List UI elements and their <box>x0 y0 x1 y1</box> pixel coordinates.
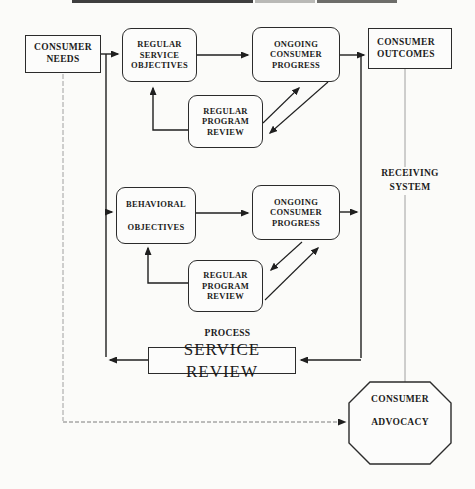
ongoing-consumer-progress-box-top: ONGOING CONSUMER PROGRESS <box>252 27 340 82</box>
arrow-review1-to-progress1-diagonal <box>263 88 299 123</box>
cropped-title-fragment <box>72 0 253 3</box>
service-review-box: SERVICE REVIEW <box>148 347 296 374</box>
ongoing-consumer-progress-box-bottom: ONGOING CONSUMER PROGRESS <box>252 185 340 240</box>
arrow-review2-to-behavioral <box>148 248 188 283</box>
consumer-outcomes-label: OUTCOMES <box>377 49 435 61</box>
consumer-needs-box: CONSUMER NEEDS <box>25 35 101 73</box>
cropped-title-fragment <box>317 0 397 3</box>
regular-program-review-label: REVIEW <box>207 127 244 138</box>
arrow-review1-to-service-objectives <box>153 88 188 130</box>
regular-service-objectives-label: OBJECTIVES <box>131 60 188 71</box>
consumer-needs-label: NEEDS <box>46 54 79 66</box>
consumer-advocacy-label: CONSUMER ADVOCACY <box>350 394 450 427</box>
behavioral-objectives-box: BEHAVIORAL OBJECTIVES <box>116 187 196 244</box>
behavioral-objectives-label: BEHAVIORAL <box>126 199 186 210</box>
regular-service-objectives-label: REGULAR <box>137 39 182 50</box>
ongoing-consumer-progress-label: ONGOING <box>274 197 318 208</box>
regular-service-objectives-box: REGULAR SERVICE OBJECTIVES <box>122 28 197 82</box>
ongoing-consumer-progress-label: ONGOING <box>274 39 318 50</box>
regular-program-review-box-top: REGULAR PROGRAM REVIEW <box>188 95 263 148</box>
regular-program-review-label: REGULAR <box>203 106 248 117</box>
arrow-review2-to-progress2-diagonal <box>265 248 318 300</box>
regular-program-review-label: PROGRAM <box>202 281 249 292</box>
ongoing-consumer-progress-label: PROGRESS <box>272 60 320 71</box>
cropped-title-fragment <box>255 0 315 3</box>
regular-service-objectives-label: SERVICE <box>140 50 180 61</box>
ongoing-consumer-progress-label: CONSUMER <box>270 207 322 218</box>
service-review-label: SERVICE REVIEW <box>149 339 295 382</box>
consumer-outcomes-label: CONSUMER <box>377 37 435 49</box>
behavioral-objectives-label: OBJECTIVES <box>128 222 185 233</box>
consumer-outcomes-box: CONSUMER OUTCOMES <box>368 28 452 69</box>
consumer-needs-label: CONSUMER <box>34 42 92 54</box>
regular-program-review-label: PROGRAM <box>202 116 249 127</box>
ongoing-consumer-progress-label: CONSUMER <box>270 49 322 60</box>
arrow-progress2-to-review2-diagonal <box>271 242 302 270</box>
regular-program-review-label: REVIEW <box>207 291 244 302</box>
regular-program-review-label: REGULAR <box>203 270 248 281</box>
ongoing-consumer-progress-label: PROGRESS <box>272 218 320 229</box>
receiving-system-label: RECEIVING SYSTEM <box>370 167 450 195</box>
regular-program-review-box-bottom: REGULAR PROGRAM REVIEW <box>188 260 263 312</box>
flowchart-diagram: CONSUMER NEEDS REGULAR SERVICE OBJECTIVE… <box>0 0 475 489</box>
